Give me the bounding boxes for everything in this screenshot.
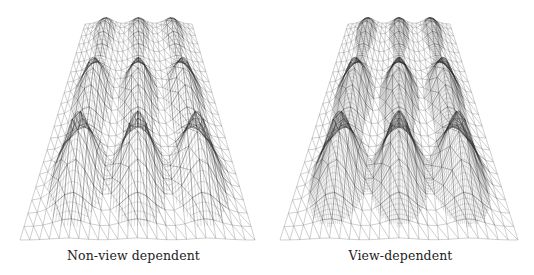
caption-view-dependent: View-dependent [267, 248, 534, 263]
terrain-mesh-non-view-dependent [0, 0, 267, 245]
caption-non-view-dependent: Non-view dependent [0, 248, 267, 263]
terrain-mesh-view-dependent [267, 0, 534, 245]
panel-non-view-dependent: Non-view dependent [0, 0, 267, 275]
panel-view-dependent: View-dependent [267, 0, 534, 275]
